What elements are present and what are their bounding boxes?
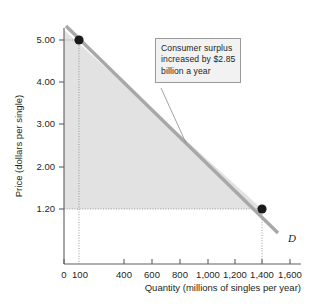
x-tick-label-400: 400: [116, 269, 132, 280]
x-tick-label-1000: 1,000: [196, 269, 220, 280]
consumer-surplus-annotation: Consumer surplus increased by $2.85 bill…: [155, 38, 241, 83]
y-tick-label-200: 2.00: [37, 161, 56, 172]
y-axis-ticks: [59, 40, 64, 209]
data-point-marker-1400-120: [257, 204, 266, 213]
y-tick-label-120: 1.20: [37, 203, 56, 214]
annotation-line-1: Consumer surplus: [161, 43, 235, 54]
y-tick-label-400: 4.00: [37, 76, 56, 87]
x-tick-label-1400: 1,400: [250, 269, 274, 280]
x-tick-label-600: 600: [144, 269, 160, 280]
x-tick-label-100: 100: [72, 269, 88, 280]
y-axis-title: Price (dollars per single): [13, 95, 24, 197]
x-tick-label-1600: 1,600: [278, 269, 302, 280]
x-axis-title: Quantity (millions of singles per year): [145, 282, 301, 293]
x-axis-ticks: [64, 259, 290, 264]
demand-curve-label: D: [287, 232, 296, 244]
x-tick-label-800: 800: [172, 269, 188, 280]
figure-consumer-surplus: 5.00 4.00 3.00 2.00 1.20 0 100 400 600 8…: [0, 0, 318, 306]
annotation-line-3: billion a year: [161, 66, 235, 77]
y-tick-label-500: 5.00: [37, 34, 56, 45]
data-point-marker-100-500: [74, 35, 83, 44]
annotation-line-2: increased by $2.85: [161, 54, 235, 65]
x-tick-label-1200: 1,200: [223, 269, 247, 280]
y-tick-label-300: 3.00: [37, 118, 56, 129]
x-tick-label-0: 0: [61, 269, 66, 280]
